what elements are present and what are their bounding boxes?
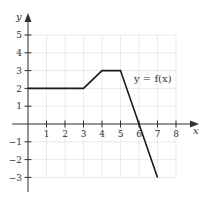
y-tick-label: 1 xyxy=(16,101,22,111)
x-tick-label: 3 xyxy=(81,129,87,139)
x-tick-label: 8 xyxy=(173,129,179,139)
x-tick-label: 7 xyxy=(155,129,161,139)
x-tick-label: 2 xyxy=(62,129,68,139)
function-graph: 1234567854321−1−2−3 x y y = f(x) xyxy=(0,0,207,202)
x-tick-label: 4 xyxy=(99,129,105,139)
y-tick-label: 4 xyxy=(16,48,22,58)
y-axis-label: y xyxy=(15,11,22,22)
grid xyxy=(28,35,176,177)
x-axis-label: x xyxy=(193,125,199,136)
y-tick-label: −2 xyxy=(9,155,22,165)
x-tick-label: 5 xyxy=(118,129,124,139)
y-tick-label: −3 xyxy=(9,173,23,183)
y-axis-arrow-icon xyxy=(25,13,32,22)
y-tick-label: 2 xyxy=(16,84,22,94)
x-tick-label: 1 xyxy=(44,129,50,139)
axes xyxy=(12,13,199,192)
function-label: y = f(x) xyxy=(133,73,172,84)
y-tick-label: 5 xyxy=(16,30,22,40)
y-tick-label: 3 xyxy=(16,66,22,76)
y-tick-label: −1 xyxy=(9,137,22,147)
